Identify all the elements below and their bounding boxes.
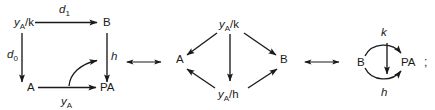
d1-edge-bottom-label-sub: A: [67, 101, 73, 110]
d2-node-bottom: yA/h: [217, 88, 239, 103]
d1-edge-right-label: h: [111, 50, 117, 62]
figure-canvas: yA/k B A PA d1 d0 h yA: [0, 0, 435, 110]
diagram-3-parallel: B PA k h: [357, 26, 416, 98]
diagram-2-diamond: yA/k A B yA/h: [176, 18, 288, 103]
d2-edge-top-left: [187, 33, 217, 55]
d1-edge-left-label-sub: 0: [13, 54, 18, 63]
d2-node-right: B: [280, 53, 288, 65]
d2-edge-bottom-left: [187, 69, 215, 88]
d1-node-bottom-left: A: [27, 81, 35, 93]
d2-node-top-suffix: /k: [230, 18, 239, 30]
d2-edge-top-right: [244, 33, 276, 55]
d1-edge-left-label: d0: [7, 48, 18, 63]
d3-edge-upper-label: k: [381, 26, 388, 38]
d3-node-right: PA: [401, 56, 416, 68]
d1-node-top-left: yA/k: [13, 16, 34, 31]
d1-edge-curved-diagonal: [69, 61, 97, 87]
d1-edge-bottom-label: yA: [60, 95, 73, 110]
d1-node-top-left-suffix: /k: [25, 16, 34, 28]
d2-node-bottom-suffix: /h: [229, 88, 239, 100]
d3-edge-lower-curved: [365, 68, 401, 79]
d1-node-bottom-right: PA: [100, 81, 115, 93]
d2-node-top: yA/k: [218, 18, 239, 33]
d1-edge-top-label: d1: [59, 3, 70, 18]
d3-edge-lower-label: h: [381, 86, 387, 98]
d1-node-top-right: B: [103, 16, 111, 28]
d3-edge-upper-curved: [365, 45, 401, 56]
trailing-punctuation: ;: [424, 55, 427, 69]
d2-node-left: A: [176, 53, 184, 65]
d2-edge-bottom-right: [248, 69, 277, 88]
commutative-diagram-figure: yA/k B A PA d1 d0 h yA: [0, 0, 435, 110]
d1-edge-top-label-sub: 1: [65, 9, 70, 18]
d3-node-left: B: [357, 56, 365, 68]
diagram-1-square: yA/k B A PA d1 d0 h yA: [7, 3, 117, 110]
